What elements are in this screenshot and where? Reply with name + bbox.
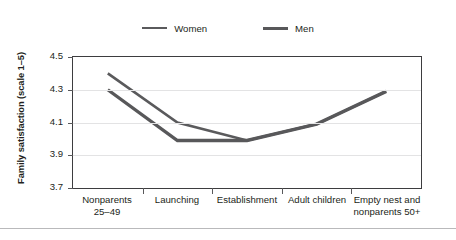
y-axis-title-container: Family satisfaction (scale 1–5) xyxy=(11,47,29,188)
horizontal-gridline xyxy=(73,123,421,124)
line-swatch-men-icon xyxy=(263,27,288,30)
series-line-women xyxy=(108,73,386,140)
legend-item-men: Men xyxy=(263,23,314,34)
legend-item-women: Women xyxy=(142,23,207,34)
series-line-men xyxy=(108,90,386,141)
x-axis-tick-label: Nonparents25–49 xyxy=(72,194,142,228)
y-axis-tick-label: 4.3 xyxy=(33,84,63,94)
y-axis-tick-label: 4.5 xyxy=(33,51,63,61)
y-axis-tick-label: 3.7 xyxy=(33,182,63,192)
y-axis-tick-mark xyxy=(68,57,73,58)
horizontal-gridline xyxy=(73,90,421,91)
family-satisfaction-line-chart: Women Men Family satisfaction (scale 1–5… xyxy=(0,0,456,240)
horizontal-gridline xyxy=(73,155,421,156)
x-axis-tick-label: Establishment xyxy=(212,194,282,228)
y-axis-tick-label: 3.9 xyxy=(33,149,63,159)
line-swatch-women-icon xyxy=(142,27,167,29)
x-axis-tick-label: Adult children xyxy=(282,194,352,228)
y-axis-tick-mark xyxy=(68,188,73,189)
x-axis-tick-label: Launching xyxy=(142,194,212,228)
x-axis-tick-labels: Nonparents25–49LaunchingEstablishmentAdu… xyxy=(72,194,422,228)
y-axis-tick-labels: 4.54.34.13.93.7 xyxy=(33,0,63,240)
figure-bottom-divider xyxy=(0,228,456,229)
legend-label-men: Men xyxy=(295,23,314,34)
plot-area xyxy=(72,56,422,189)
x-axis-tick-label: Empty nest andnonparents 50+ xyxy=(352,194,422,228)
legend-label-women: Women xyxy=(174,23,207,34)
chart-legend: Women Men xyxy=(0,18,456,38)
y-axis-title: Family satisfaction (scale 1–5) xyxy=(15,52,26,184)
y-axis-tick-label: 4.1 xyxy=(33,117,63,127)
